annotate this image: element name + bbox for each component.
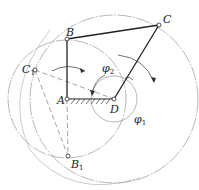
label-phi2: φ2	[102, 63, 114, 76]
arrowhead-phi2	[90, 90, 95, 96]
link-cd	[114, 25, 159, 99]
joint-b1	[66, 154, 70, 158]
linkage-diagram: B C A D C1 B1 φ2 φ1	[0, 0, 199, 190]
label-b1: B1	[71, 159, 84, 172]
label-phi1: φ1	[134, 114, 146, 127]
label-d: D	[110, 104, 119, 115]
arrowhead-cd	[151, 77, 156, 83]
ground-hatch	[71, 99, 110, 104]
line-c1-b1	[35, 70, 68, 156]
link-bc	[67, 25, 159, 39]
joint-a	[65, 97, 69, 101]
rotation-arrow-ab	[52, 67, 85, 72]
label-a: A	[57, 95, 65, 106]
joint-d	[112, 97, 116, 101]
joint-c	[157, 23, 161, 27]
label-c: C	[163, 14, 171, 25]
label-b: B	[66, 27, 74, 38]
line-a-b1	[67, 99, 68, 156]
joints	[33, 23, 161, 158]
label-c1: C1	[22, 64, 35, 77]
diagram-graphics	[0, 0, 199, 190]
